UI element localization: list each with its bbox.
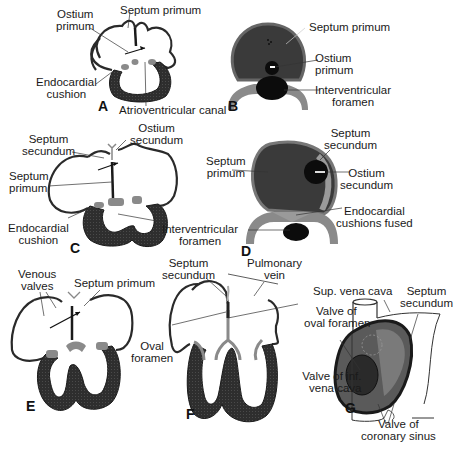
panel-e-heart (12, 290, 133, 410)
panel-letter-a: A (98, 98, 108, 114)
label-f-septum-secundum: Septum secundum (162, 257, 215, 281)
label-line: Venous (18, 268, 56, 280)
label-a-ostium-primum: Ostium primum (56, 8, 94, 32)
label-c-interventricular-foramen: Interventricular foramen (162, 223, 238, 247)
label-g-septum-secundum: Septum secundum (400, 285, 453, 309)
label-line: Septum (206, 155, 246, 167)
label-line: Valve of (304, 305, 370, 317)
label-line: cushion (36, 88, 97, 100)
heart-septation-diagram: Ostium primum Septum primum Endocardial … (0, 0, 456, 452)
label-line: Septum (324, 127, 377, 139)
label-line: secundum (22, 145, 75, 157)
label-line: secundum (340, 179, 393, 191)
panel-letter-f: F (186, 406, 195, 422)
label-line: Ostium (340, 167, 393, 179)
label-line: Valve of (361, 418, 436, 430)
label-line: foramen (315, 96, 391, 108)
panel-letter-e: E (26, 398, 35, 414)
label-line: secundum (130, 134, 183, 146)
label-line: coronary sinus (361, 430, 436, 442)
label-line: cushions fused (336, 217, 413, 229)
label-line: Endocardial (8, 222, 69, 234)
label-line: Interventricular (315, 84, 391, 96)
label-line: Septum (162, 257, 215, 269)
label-f-oval-foramen: Oval foramen (131, 340, 173, 364)
label-b-interventricular-foramen: Interventricular foramen (315, 84, 391, 108)
label-line: Oval (131, 340, 173, 352)
panel-letter-g: G (345, 400, 356, 416)
label-line: Septum (400, 285, 453, 297)
panel-letter-c: C (70, 240, 80, 256)
label-c-ostium-secundum: Ostium secundum (130, 122, 183, 146)
label-line: cushion (8, 234, 69, 246)
label-line: Ostium (56, 8, 94, 20)
label-c-septum-primum: Septum primum (9, 170, 49, 194)
panel-d-heart (232, 142, 350, 244)
label-line: valves (18, 280, 56, 292)
label-b-ostium-primum: Ostium primum (315, 52, 353, 76)
label-line: foramen (131, 352, 173, 364)
panel-f-heart (170, 274, 298, 422)
label-line: Pulmonary (247, 257, 302, 269)
label-c-septum-secundum: Septum secundum (22, 133, 75, 157)
label-line: primum (315, 64, 353, 76)
label-line: secundum (324, 139, 377, 151)
label-d-septum-primum: Septum primum (206, 155, 246, 179)
label-line: primum (9, 182, 49, 194)
label-line: vena cava (301, 382, 361, 394)
label-f-pulmonary-vein: Pulmonary vein (247, 257, 302, 281)
label-g-sup-vena-cava: Sup. vena cava (313, 285, 392, 297)
label-a-endocardial-cushion: Endocardial cushion (36, 76, 97, 100)
label-line: oval foramen (304, 317, 370, 329)
label-d-ostium-secundum: Ostium secundum (340, 167, 393, 191)
label-line: foramen (162, 235, 238, 247)
label-g-valve-of-coronary-sinus: Valve of coronary sinus (361, 418, 436, 442)
label-e-venous-valves: Venous valves (18, 268, 56, 292)
label-a-atrioventricular-canal: Atrioventricular canal (119, 104, 226, 116)
panel-b-heart (228, 24, 320, 110)
label-a-septum-primum: Septum primum (120, 4, 201, 16)
label-c-endocardial-cushion: Endocardial cushion (8, 222, 69, 246)
label-line: Valve of inf. (301, 370, 361, 382)
label-line: Septum (9, 170, 49, 182)
label-line: secundum (162, 269, 215, 281)
label-d-endocardial-cushions-fused: Endocardial cushions fused (336, 205, 413, 229)
label-line: vein (247, 269, 302, 281)
label-b-septum-primum: Septum primum (309, 21, 390, 33)
label-line: Endocardial (336, 205, 413, 217)
label-line: Septum (22, 133, 75, 145)
label-line: primum (56, 20, 94, 32)
panel-a-heart (90, 12, 175, 106)
label-line: secundum (400, 297, 453, 309)
label-line: Ostium (130, 122, 183, 134)
label-f-valve-of-oval-foramen: Valve of oval foramen (304, 305, 370, 329)
label-line: Ostium (315, 52, 353, 64)
label-line: Interventricular (162, 223, 238, 235)
label-line: primum (206, 167, 246, 179)
label-e-septum-primum: Septum primum (74, 277, 155, 289)
label-line: Endocardial (36, 76, 97, 88)
label-d-septum-secundum: Septum secundum (324, 127, 377, 151)
panel-letter-b: B (228, 98, 238, 114)
label-g-valve-of-inf-vena-cava: Valve of inf. vena cava (301, 370, 361, 394)
